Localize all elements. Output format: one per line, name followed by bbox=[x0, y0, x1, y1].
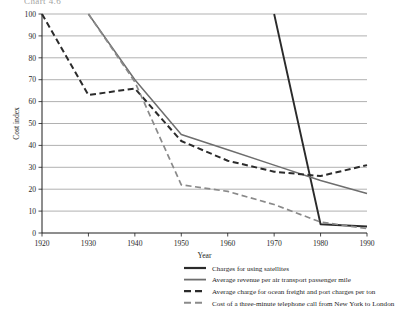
y-tick-label: 80 bbox=[28, 54, 36, 63]
x-tick-label: 1990 bbox=[359, 239, 374, 248]
series-line bbox=[88, 14, 367, 194]
x-tick-label: 1940 bbox=[127, 239, 142, 248]
series-line bbox=[42, 14, 367, 176]
x-axis-title: Year bbox=[198, 251, 212, 260]
series-line bbox=[88, 14, 367, 229]
y-tick-label: 50 bbox=[28, 119, 36, 128]
x-tick-label: 1950 bbox=[174, 239, 189, 248]
y-tick-label: 20 bbox=[28, 185, 36, 194]
y-tick-label: 90 bbox=[28, 32, 36, 41]
x-tick-label: 1970 bbox=[267, 239, 282, 248]
y-tick-label: 30 bbox=[28, 163, 36, 172]
y-tick-label: 10 bbox=[28, 207, 36, 216]
y-tick-label: 40 bbox=[28, 141, 36, 150]
x-tick-label: 1980 bbox=[313, 239, 328, 248]
x-tick-label: 1930 bbox=[81, 239, 96, 248]
chart-canvas: 0102030405060708090100192019301940195019… bbox=[0, 0, 408, 319]
chart-figure: Chart 4.6 010203040506070809010019201930… bbox=[0, 0, 408, 319]
legend-label: Average charge for ocean freight and por… bbox=[212, 288, 376, 296]
y-axis-title: Cost index bbox=[12, 107, 21, 140]
y-tick-label: 70 bbox=[28, 75, 36, 84]
y-tick-label: 60 bbox=[28, 97, 36, 106]
x-tick-label: 1920 bbox=[34, 239, 49, 248]
x-tick-label: 1960 bbox=[220, 239, 235, 248]
legend-label: Charges for using satellites bbox=[212, 265, 289, 273]
legend-label: Average revenue per air transport passen… bbox=[212, 276, 351, 284]
series-line bbox=[274, 14, 367, 226]
y-tick-label: 0 bbox=[32, 229, 36, 238]
legend-label: Cost of a three-minute telephone call fr… bbox=[212, 300, 395, 308]
y-tick-label: 100 bbox=[25, 10, 37, 19]
